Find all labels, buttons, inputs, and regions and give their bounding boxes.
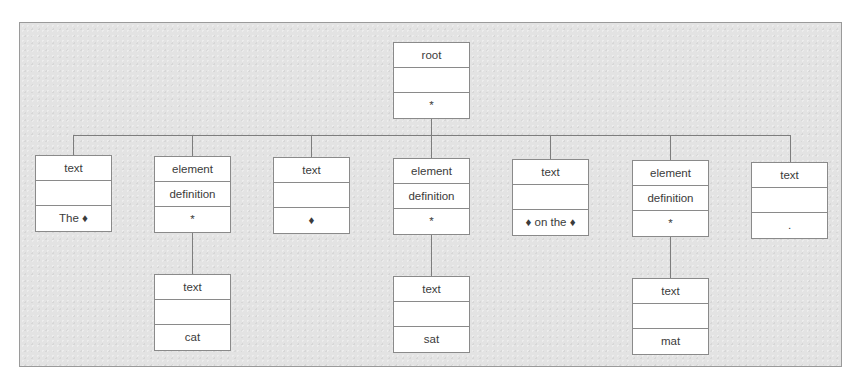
connector-horizontal-bus (73, 135, 791, 136)
node-content: * (155, 207, 230, 232)
node-content: mat (633, 329, 708, 354)
text-node-on-the: text ♦ on the ♦ (512, 159, 589, 236)
connector-grandchild-sat (431, 233, 432, 276)
node-subtype-label: definition (633, 186, 708, 211)
node-content: ♦ (274, 208, 349, 233)
node-type-label: text (394, 277, 469, 302)
node-subtype-label (513, 185, 588, 210)
node-type-label: text (633, 279, 708, 304)
connector-grandchild-cat (192, 231, 193, 274)
text-node-the: text The ♦ (35, 155, 112, 232)
node-subtype-label (752, 188, 827, 213)
connector-grandchild-mat (670, 235, 671, 278)
text-node-mat: text mat (632, 278, 709, 355)
node-content: * (633, 211, 708, 236)
node-type-label: text (36, 156, 111, 181)
node-content: The ♦ (36, 206, 111, 231)
node-type-label: element (155, 157, 230, 182)
connector-child-4 (431, 135, 432, 158)
element-definition-node-2: element definition * (393, 158, 470, 235)
node-subtype-label (633, 304, 708, 329)
text-node-period: text . (751, 162, 828, 239)
node-type-label: element (633, 161, 708, 186)
node-content: * (394, 93, 469, 118)
element-definition-node-3: element definition * (632, 160, 709, 237)
element-definition-node-1: element definition * (154, 156, 231, 233)
node-type-label: text (274, 158, 349, 183)
node-subtype-label: definition (394, 184, 469, 209)
text-node-sat: text sat (393, 276, 470, 353)
node-subtype-label (394, 302, 469, 327)
node-type-label: text (155, 275, 230, 300)
text-node-cat: text cat (154, 274, 231, 351)
node-type-label: root (394, 43, 469, 68)
node-subtype-label (274, 183, 349, 208)
connector-child-3 (311, 135, 312, 157)
connector-child-6 (670, 135, 671, 160)
node-type-label: text (513, 160, 588, 185)
connector-root-down (431, 117, 432, 135)
node-subtype-label (394, 68, 469, 93)
connector-child-2 (192, 135, 193, 156)
node-content: ♦ on the ♦ (513, 210, 588, 235)
connector-child-7 (790, 135, 791, 162)
node-subtype-label (155, 300, 230, 325)
node-type-label: text (752, 163, 827, 188)
text-node-separator: text ♦ (273, 157, 350, 234)
node-content: cat (155, 325, 230, 350)
node-subtype-label: definition (155, 182, 230, 207)
connector-child-5 (550, 135, 551, 159)
node-content: sat (394, 327, 469, 352)
node-content: * (394, 209, 469, 234)
root-node: root * (393, 42, 470, 119)
node-content: . (752, 213, 827, 238)
node-type-label: element (394, 159, 469, 184)
node-subtype-label (36, 181, 111, 206)
connector-child-1 (73, 135, 74, 155)
